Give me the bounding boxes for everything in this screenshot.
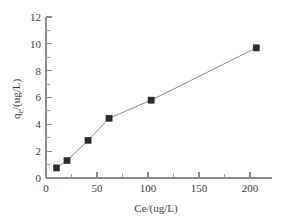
data-point [53,165,59,171]
y-axis-title: qe/(ug/L) [10,79,25,120]
data-point [85,137,91,143]
data-point [148,97,154,103]
data-series [53,45,259,171]
x-tick-label: 0 [43,182,49,194]
x-axis-major-ticks [46,172,250,178]
data-point [253,45,259,51]
y-tick-label: 4 [36,118,42,130]
x-tick-label: 150 [191,182,208,194]
svg-text:qe/(ug/L): qe/(ug/L) [10,79,25,120]
chart-plot-area: 0 2 4 6 8 10 12 0 50 100 150 200 Ce/(ug/… [0,0,283,224]
x-tick-label: 200 [242,182,259,194]
x-tick-label: 100 [140,182,157,194]
x-axis-tick-labels: 0 50 100 150 200 [43,182,259,194]
chart-container: 0 2 4 6 8 10 12 0 50 100 150 200 Ce/(ug/… [0,0,283,224]
y-tick-label: 2 [36,145,42,157]
y-tick-label: 12 [30,11,41,23]
y-tick-label: 0 [36,172,42,184]
y-axis-title-rest: /(ug/L) [10,79,23,110]
x-axis-title: Ce/(ug/L) [134,202,178,215]
series-markers [53,45,259,171]
x-tick-label: 50 [92,182,104,194]
y-axis-tick-labels: 0 2 4 6 8 10 12 [30,11,42,184]
data-point [106,115,112,121]
y-tick-label: 10 [30,38,42,50]
chart-axes [46,17,272,178]
data-point [64,157,70,163]
y-tick-label: 6 [36,91,42,103]
series-line [57,48,257,168]
y-tick-label: 8 [36,65,42,77]
